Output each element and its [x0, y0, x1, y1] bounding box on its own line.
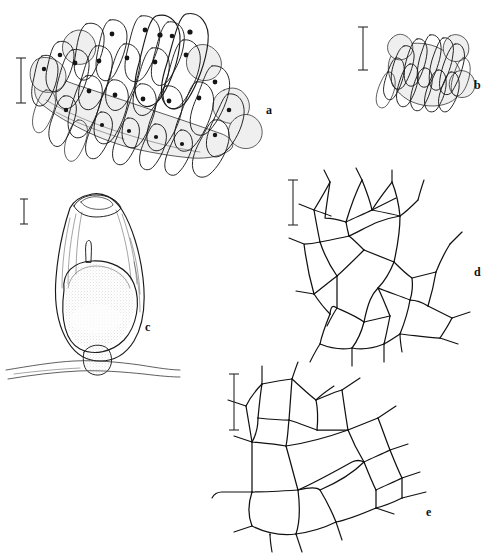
panel-label-e: e — [426, 506, 431, 518]
panel-label-b: b — [474, 79, 481, 91]
panel-e-illustration — [212, 362, 426, 552]
panel-b-illustration — [358, 27, 475, 112]
panel-c-illustration — [6, 194, 180, 379]
panel-e-cell-walls — [212, 362, 426, 552]
panel-a-illustration — [16, 14, 262, 178]
panel-e-scale-bar — [229, 374, 239, 430]
panel-label-a: a — [266, 104, 272, 116]
panel-c-capsule — [63, 240, 138, 352]
panel-d-cell-walls — [289, 168, 470, 366]
panel-b-scale-bar — [358, 27, 368, 70]
gemma — [135, 15, 180, 106]
panel-a-scale-bar — [16, 58, 26, 103]
figure-plate: a b c d e — [0, 0, 497, 557]
panel-c-scale-bar — [20, 199, 28, 224]
figure-canvas — [0, 0, 497, 557]
panel-label-d: d — [474, 266, 481, 278]
panel-d-illustration — [288, 168, 470, 366]
panel-label-c: c — [145, 321, 150, 333]
panel-c-foot — [83, 345, 111, 375]
panel-d-scale-bar — [288, 180, 298, 225]
